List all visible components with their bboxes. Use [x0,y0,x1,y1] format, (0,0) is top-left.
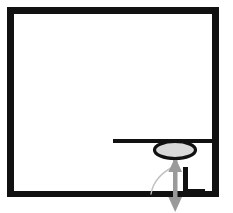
enclosure-top-wall [7,7,219,14]
enclosure-left-wall [7,7,14,197]
diagram-canvas [0,0,233,213]
disc-ellipse [155,142,196,159]
background-rect [0,0,233,213]
diagram-svg [0,0,233,213]
enclosure-bottom-wall-left [7,191,185,197]
enclosure-right-wall [212,7,219,197]
notch-foot [183,189,205,195]
